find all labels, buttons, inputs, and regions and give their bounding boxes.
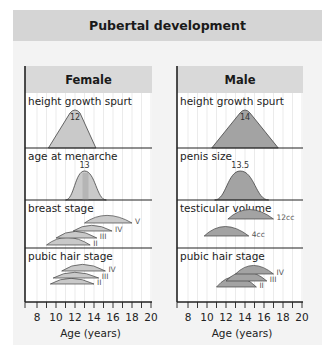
- x-tick-label: 16: [106, 311, 120, 323]
- x-tick-label: 12: [219, 311, 232, 323]
- svg-text:age at menarche: age at menarche: [28, 150, 118, 162]
- x-tick-label: 18: [276, 311, 289, 323]
- male-chart: Maleheight growth spurt14penis size13.5t…: [177, 66, 309, 339]
- x-tick-label: 18: [125, 311, 138, 323]
- svg-text:penis size: penis size: [180, 150, 232, 162]
- x-tick-label: 10: [200, 311, 213, 323]
- svg-text:IV: IV: [277, 268, 285, 277]
- x-tick-label: 12: [68, 311, 81, 323]
- x-tick-label: 14: [87, 311, 101, 323]
- svg-text:13: 13: [79, 161, 89, 170]
- svg-text:height growth spurt: height growth spurt: [28, 95, 132, 107]
- svg-text:V: V: [135, 217, 141, 226]
- pubertal-development-chart: Femaleheight growth spurt12age at menarc…: [0, 0, 329, 356]
- svg-text:pubic hair stage: pubic hair stage: [180, 250, 265, 262]
- svg-text:III: III: [102, 272, 109, 281]
- x-axis-label: Age (years): [60, 327, 121, 339]
- svg-text:4cc: 4cc: [252, 230, 265, 239]
- svg-text:III: III: [270, 275, 277, 284]
- svg-text:14: 14: [240, 113, 250, 122]
- svg-text:Female: Female: [65, 73, 112, 87]
- svg-text:II: II: [259, 281, 263, 290]
- svg-text:12: 12: [70, 113, 80, 122]
- svg-text:13.5: 13.5: [231, 161, 249, 170]
- x-tick-label: 20: [295, 311, 308, 323]
- x-tick-label: 20: [144, 311, 157, 323]
- x-tick-label: 16: [257, 311, 271, 323]
- female-chart: Femaleheight growth spurt12age at menarc…: [25, 66, 158, 339]
- x-tick-label: 10: [49, 311, 62, 323]
- svg-text:pubic hair stage: pubic hair stage: [28, 250, 113, 262]
- x-tick-label: 8: [185, 311, 192, 323]
- x-tick-label: 8: [34, 311, 41, 323]
- svg-text:Male: Male: [225, 73, 256, 87]
- svg-text:IV: IV: [108, 265, 116, 274]
- svg-text:IV: IV: [115, 225, 123, 234]
- svg-text:height growth spurt: height growth spurt: [180, 95, 284, 107]
- svg-text:breast stage: breast stage: [28, 202, 94, 214]
- svg-text:III: III: [100, 232, 107, 241]
- svg-text:II: II: [93, 239, 97, 248]
- svg-text:12cc: 12cc: [277, 213, 295, 222]
- x-axis-label: Age (years): [212, 327, 273, 339]
- x-tick-label: 14: [238, 311, 252, 323]
